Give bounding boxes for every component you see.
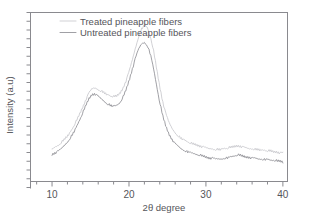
x-tick-label: 40 — [277, 189, 289, 200]
chart-legend: Treated pineapple fibers Untreated pinea… — [60, 16, 192, 39]
x-axis-label: 2θ degree — [143, 202, 186, 213]
x-tick-label: 30 — [200, 189, 212, 200]
x-tick-label: 10 — [46, 189, 58, 200]
xrd-diffractogram-chart: 10203040 2θ degree Intensity (a.u) Treat… — [0, 0, 310, 222]
legend-label-treated: Treated pineapple fibers — [80, 16, 182, 27]
chart-figure: 10203040 2θ degree Intensity (a.u) Treat… — [0, 0, 310, 222]
y-axis-label: Intensity (a.u) — [4, 76, 15, 134]
legend-label-untreated: Untreated pineapple fibers — [80, 27, 192, 38]
x-tick-label: 20 — [123, 189, 135, 200]
